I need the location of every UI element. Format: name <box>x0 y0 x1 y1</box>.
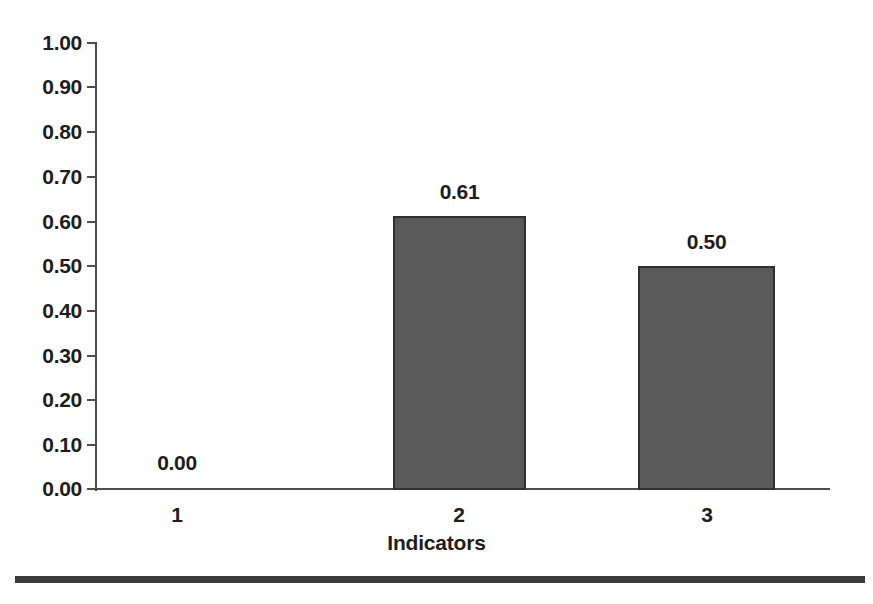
y-tick-mark-1.00 <box>87 42 96 44</box>
y-tick-label-1.00: 1.00 <box>4 32 82 53</box>
bar-chart-figure: 1.00 0.90 0.80 0.70 0.60 0.50 0.40 0.30 … <box>0 0 873 604</box>
y-tick-label-0.80: 0.80 <box>4 121 82 142</box>
bottom-divider-rule <box>15 576 865 583</box>
y-tick-label-0.40: 0.40 <box>4 300 82 321</box>
bar-value-label-3: 0.50 <box>639 231 774 252</box>
x-axis-title: Indicators <box>0 532 873 553</box>
y-tick-mark-0.80 <box>87 131 96 133</box>
y-tick-mark-0.60 <box>87 221 96 223</box>
y-tick-mark-0.30 <box>87 355 96 357</box>
x-category-label-3: 3 <box>647 504 767 525</box>
bar-value-label-1: 0.00 <box>112 452 242 473</box>
y-tick-label-0.00: 0.00 <box>4 478 82 499</box>
y-tick-label-0.60: 0.60 <box>4 211 82 232</box>
y-tick-mark-0.40 <box>87 310 96 312</box>
y-tick-label-0.90: 0.90 <box>4 76 82 97</box>
x-category-label-2: 2 <box>399 504 519 525</box>
y-tick-mark-0.90 <box>87 86 96 88</box>
y-tick-mark-0.70 <box>87 176 96 178</box>
y-tick-label-0.10: 0.10 <box>4 434 82 455</box>
y-tick-mark-0.00 <box>87 488 96 490</box>
y-tick-mark-0.20 <box>87 399 96 401</box>
bar-3 <box>638 266 775 490</box>
bar-2 <box>393 216 526 490</box>
y-tick-label-0.50: 0.50 <box>4 255 82 276</box>
y-tick-label-0.30: 0.30 <box>4 345 82 366</box>
x-category-label-1: 1 <box>117 504 237 525</box>
y-tick-mark-0.10 <box>87 444 96 446</box>
bar-value-label-2: 0.61 <box>394 181 525 202</box>
y-tick-label-0.20: 0.20 <box>4 389 82 410</box>
y-tick-label-0.70: 0.70 <box>4 166 82 187</box>
y-tick-mark-0.50 <box>87 265 96 267</box>
